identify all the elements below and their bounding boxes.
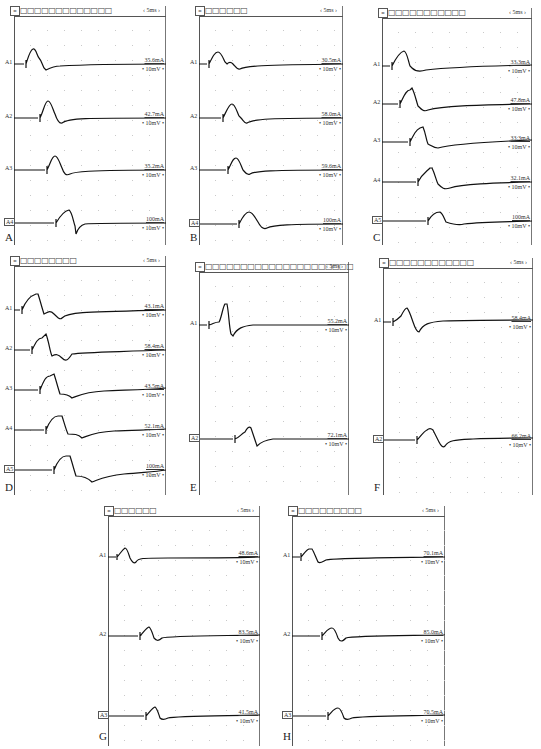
- channel-label: A4: [373, 177, 380, 183]
- stimulus-amplitude: 70.5mA: [424, 709, 444, 715]
- channel-label: A1: [373, 61, 380, 67]
- gain-label[interactable]: 10mV: [142, 472, 164, 478]
- stimulus-amplitude: 85.0mA: [424, 629, 444, 635]
- gain-label[interactable]: 10mV: [319, 66, 341, 72]
- stimulus-amplitude: 52.1mA: [145, 423, 165, 429]
- stimulus-amplitude: 58.4mA: [512, 315, 532, 321]
- channel-label: A5: [372, 216, 383, 224]
- stimulus-amplitude: 30.5mA: [322, 57, 342, 63]
- panel-letter: B: [190, 231, 197, 243]
- stimulus-amplitude: 55.2mA: [328, 318, 348, 324]
- channel-label: A2: [190, 113, 197, 119]
- gain-label[interactable]: 10mV: [236, 559, 258, 565]
- gain-label[interactable]: 10mV: [236, 718, 258, 724]
- gain-label[interactable]: 10mV: [508, 106, 530, 112]
- gain-label[interactable]: 10mV: [142, 172, 164, 178]
- gain-label[interactable]: 10mV: [508, 68, 530, 74]
- gain-label[interactable]: 10mV: [421, 559, 443, 565]
- stimulus-amplitude: 43.1mA: [145, 303, 165, 309]
- stimulus-amplitude: 32.1mA: [511, 175, 531, 181]
- gain-label[interactable]: 10mV: [421, 718, 443, 724]
- channel-label: A1: [374, 317, 381, 323]
- gain-label[interactable]: 10mV: [142, 392, 164, 398]
- channel-label: A3: [98, 711, 109, 719]
- panel-e: ≡ □□□□□□□□□□□□□□□□□□□□□ 5ms A1 55.2mA 10…: [199, 262, 349, 495]
- traces: [292, 506, 445, 746]
- gain-label[interactable]: 10mV: [325, 441, 347, 447]
- gain-label[interactable]: 10mV: [142, 312, 164, 318]
- gain-label[interactable]: 10mV: [142, 66, 164, 72]
- stimulus-amplitude: 48.6mA: [239, 550, 259, 556]
- panel-a: ≡ □□□□□□□□□□□□□ 5ms A1 35.6mA 10mV A2 42…: [14, 6, 166, 245]
- channel-label: A2: [189, 434, 200, 442]
- panel-letter: E: [190, 481, 197, 493]
- gain-label[interactable]: 10mV: [325, 327, 347, 333]
- stimulus-amplitude: 33.3mA: [511, 135, 531, 141]
- channel-label: A3: [282, 711, 293, 719]
- channel-label: A2: [373, 99, 380, 105]
- panel-letter: H: [283, 730, 291, 742]
- gain-label[interactable]: 10mV: [319, 120, 341, 126]
- channel-label: A4: [189, 219, 200, 227]
- gain-label[interactable]: 10mV: [508, 223, 530, 229]
- gain-label[interactable]: 10mV: [319, 226, 341, 232]
- traces: [199, 262, 349, 495]
- gain-label[interactable]: 10mV: [421, 638, 443, 644]
- channel-label: A2: [99, 631, 106, 637]
- stimulus-amplitude: 100mA: [146, 463, 164, 469]
- channel-label: A1: [190, 320, 197, 326]
- stimulus-amplitude: 43.5mA: [145, 383, 165, 389]
- gain-label[interactable]: 10mV: [319, 172, 341, 178]
- gain-label[interactable]: 10mV: [142, 432, 164, 438]
- channel-label: A1: [5, 59, 12, 65]
- traces: [108, 506, 260, 746]
- stimulus-amplitude: 42.7mA: [145, 111, 165, 117]
- gain-label[interactable]: 10mV: [142, 225, 164, 231]
- panel-g: ≡ □□□□□□ 5ms A1 48.6mA 10mV A2 83.5mA 10…: [108, 506, 260, 746]
- stimulus-amplitude: 83.5mA: [239, 629, 259, 635]
- channel-label: A1: [190, 59, 197, 65]
- gain-label[interactable]: 10mV: [509, 324, 531, 330]
- stimulus-amplitude: 58.4mA: [145, 343, 165, 349]
- gain-label[interactable]: 10mV: [142, 352, 164, 358]
- channel-label: A3: [5, 165, 12, 171]
- traces: [382, 8, 532, 245]
- panel-f: ≡ □□□□□□□□□□□□ 5ms A1 58.4mA 10mV A2 66.…: [383, 258, 533, 495]
- gain-label[interactable]: 10mV: [508, 184, 530, 190]
- panel-letter: D: [5, 481, 13, 493]
- stimulus-amplitude: 47.8mA: [511, 97, 531, 103]
- stimulus-amplitude: 33.3mA: [511, 59, 531, 65]
- stimulus-amplitude: 66.2mA: [512, 433, 532, 439]
- gain-label[interactable]: 10mV: [509, 442, 531, 448]
- traces: [14, 256, 166, 495]
- panel-h: ≡ □□□□□□□□□ 5ms A1 70.1mA 10mV A2 85.0mA…: [292, 506, 445, 746]
- channel-label: A2: [283, 631, 290, 637]
- stimulus-amplitude: 41.5mA: [239, 709, 259, 715]
- gain-label[interactable]: 10mV: [142, 120, 164, 126]
- stimulus-amplitude: 58.0mA: [322, 111, 342, 117]
- channel-label: A3: [190, 165, 197, 171]
- traces: [383, 258, 533, 495]
- panel-letter: F: [374, 481, 380, 493]
- channel-label: A4: [5, 425, 12, 431]
- stimulus-amplitude: 72.1mA: [328, 432, 348, 438]
- channel-label: A1: [99, 552, 106, 558]
- stimulus-amplitude: 35.6mA: [145, 57, 165, 63]
- channel-label: A2: [5, 345, 12, 351]
- stimulus-amplitude: 59.6mA: [322, 163, 342, 169]
- channel-label: A3: [373, 137, 380, 143]
- panel-b: ≡ □□□□□□ 5ms A1 30.5mA 10mV A2 58.0mA 10…: [199, 6, 343, 245]
- panel-letter: A: [5, 231, 13, 243]
- channel-label: A4: [4, 218, 15, 226]
- gain-label[interactable]: 10mV: [236, 638, 258, 644]
- stimulus-amplitude: 100mA: [323, 217, 341, 223]
- channel-label: A1: [283, 552, 290, 558]
- panel-d: ≡ □□□□□□□□ 5ms A1 43.1mA 10mV A2 58.4mA …: [14, 256, 166, 495]
- panel-letter: G: [99, 730, 107, 742]
- channel-label: A3: [5, 385, 12, 391]
- stimulus-amplitude: 100mA: [146, 216, 164, 222]
- channel-label: A5: [4, 465, 15, 473]
- gain-label[interactable]: 10mV: [508, 144, 530, 150]
- channel-label: A1: [5, 305, 12, 311]
- panel-c: ≡ □□□□□□□□□□□ 5ms A1 33.3mA 10mV A2 47.8…: [382, 8, 532, 245]
